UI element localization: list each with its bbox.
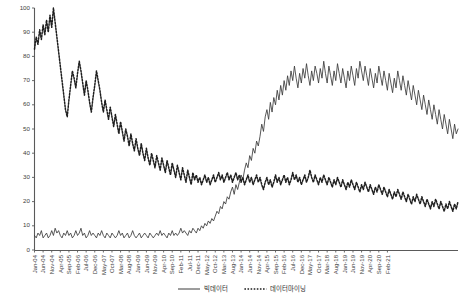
chart-container: 0102030405060708090100 Jan-04Jun-04Nov-0… (0, 0, 463, 306)
x-tick-label: Mar-18 (324, 254, 330, 274)
x-tick-label: Oct-12 (212, 254, 218, 273)
x-tick-label: Feb-11 (178, 254, 184, 273)
x-tick-label: Jan-09 (135, 254, 141, 273)
x-axis: Jan-04Jun-04Nov-04Apr-05Sep-05Feb-06Jul-… (32, 250, 458, 275)
y-tick-label: 90 (23, 28, 30, 35)
x-tick-label: Aug-08 (126, 254, 132, 274)
x-tick-label: May-12 (204, 254, 210, 275)
x-tick-label: Dec-06 (92, 254, 98, 274)
y-tick-label: 60 (23, 100, 30, 107)
x-tick-group: Jan-04Jun-04Nov-04Apr-05Sep-05Feb-06Jul-… (32, 250, 391, 275)
x-tick-label: Feb-06 (75, 254, 81, 274)
x-tick-label: Jul-06 (83, 254, 89, 271)
legend-label-bigdata: 빅데이터 (204, 284, 228, 293)
y-tick-group: 0102030405060708090100 (20, 4, 35, 253)
y-tick-label: 0 (27, 246, 31, 253)
x-tick-label: Mar-08 (118, 254, 124, 274)
x-tick-label: Nov-04 (49, 254, 55, 274)
y-tick-label: 100 (20, 4, 31, 11)
x-tick-label: Nov-14 (256, 254, 262, 274)
legend-label-datamining: 데이터마이닝 (270, 284, 306, 293)
x-tick-label: Sep-10 (169, 254, 175, 274)
y-tick-label: 20 (23, 197, 30, 204)
trends-line-chart: 0102030405060708090100 Jan-04Jun-04Nov-0… (0, 0, 463, 306)
y-axis: 0102030405060708090100 (20, 4, 35, 253)
x-tick-label: Jul-16 (290, 254, 296, 271)
x-tick-label: Feb-21 (385, 254, 391, 274)
series-line-datamining (35, 8, 459, 211)
x-tick-label: Nov-09 (152, 254, 158, 274)
x-tick-label: Dec-11 (195, 254, 201, 274)
x-tick-label: Aug-18 (333, 254, 339, 274)
x-tick-label: Apr-05 (58, 254, 64, 273)
x-tick-label: Apr-15 (264, 254, 270, 273)
y-tick-label: 10 (23, 221, 30, 228)
y-tick-label: 80 (23, 52, 30, 59)
x-tick-label: Jun-04 (40, 254, 46, 273)
x-tick-label: Jan-14 (238, 254, 244, 273)
x-tick-label: Jul-11 (187, 254, 193, 271)
x-tick-label: Jun-19 (350, 254, 356, 273)
x-tick-label: May-07 (101, 254, 107, 275)
x-tick-label: Nov-19 (359, 254, 365, 274)
x-tick-label: Sep-20 (376, 254, 382, 274)
y-tick-label: 50 (23, 125, 30, 132)
x-tick-label: Aug-13 (230, 254, 236, 274)
x-tick-label: Sep-05 (66, 254, 72, 274)
x-tick-label: Mar-13 (221, 254, 227, 274)
y-tick-label: 70 (23, 76, 30, 83)
y-tick-label: 40 (23, 149, 30, 156)
x-tick-label: Jun-09 (144, 254, 150, 273)
x-tick-label: Jan-19 (342, 254, 348, 273)
x-tick-label: Oct-17 (316, 254, 322, 273)
series-line-bigdata (35, 61, 459, 238)
x-tick-label: Sep-15 (273, 254, 279, 274)
plot-area (35, 8, 459, 238)
y-tick-label: 30 (23, 173, 30, 180)
x-tick-label: Feb-16 (281, 254, 287, 274)
x-tick-label: Oct-07 (109, 254, 115, 273)
x-tick-label: Dec-16 (299, 254, 305, 274)
x-tick-label: Apr-10 (161, 254, 167, 273)
chart-legend: 빅데이터데이터마이닝 (178, 284, 306, 293)
x-tick-label: Apr-20 (367, 254, 373, 273)
x-tick-label: May-17 (307, 254, 313, 275)
x-tick-label: Jun-14 (247, 254, 253, 273)
x-tick-label: Jan-04 (32, 254, 38, 273)
